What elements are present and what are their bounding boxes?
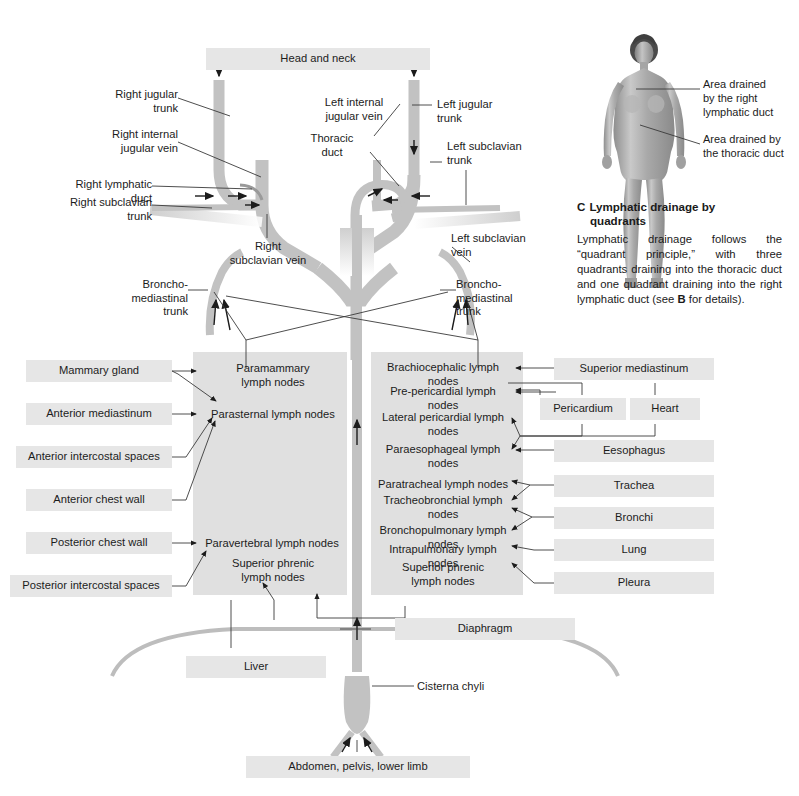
node-label-paratracheal: Paratracheal lymph nodes (375, 478, 511, 492)
label-left-subclavian-trunk: Left subclavian trunk (447, 140, 551, 167)
organ-box-liver[interactable]: Liver (186, 656, 326, 678)
source-box-bronchi[interactable]: Bronchi (554, 507, 714, 529)
node-label-parasternal: Parasternal lymph nodes (201, 408, 345, 422)
section-c-letter: C (577, 200, 585, 213)
label-left-internal-jugular-vein: Left internal jugular vein (306, 96, 402, 123)
source-box-posterior-chest-wall[interactable]: Posterior chest wall (26, 532, 172, 554)
source-box-abdomen-pelvis-lower-limb[interactable]: Abdomen, pelvis, lower limb (246, 756, 470, 778)
label-cisterna-chyli: Cisterna chyli (417, 680, 527, 694)
node-label-tracheobronchial: Tracheobronchial lymph nodes (375, 494, 511, 521)
source-box-posterior-intercostal-spaces[interactable]: Posterior intercostal spaces (10, 575, 172, 597)
source-box-trachea[interactable]: Trachea (554, 475, 714, 497)
label-right-jugular-trunk: Right jugular trunk (60, 88, 178, 115)
node-label-paraesophageal: Paraesophageal lymph nodes (375, 443, 511, 470)
label-right-subclavian-trunk: Right subclavian trunk (34, 196, 152, 223)
node-label-paramammary: Paramammary lymph nodes (205, 362, 341, 389)
node-label-superior-phrenic-right: Superior phrenic lymph nodes (379, 561, 507, 588)
section-c-title: CLymphatic drainage by quadrants (577, 200, 782, 229)
callout-area-thoracic-duct: Area drained by the thoracic duct (703, 133, 799, 161)
label-broncho-mediastinal-trunk-left: Broncho- mediastinal trunk (456, 278, 542, 319)
source-box-heart[interactable]: Heart (630, 398, 700, 420)
label-right-internal-jugular-vein: Right internal jugular vein (50, 128, 178, 155)
section-c-body-part2: for details). (686, 293, 745, 305)
node-label-paravertebral: Paravertebral lymph nodes (199, 537, 345, 551)
section-c-body: Lymphatic drainage follows the “quadrant… (577, 232, 782, 307)
source-box-pleura[interactable]: Pleura (554, 572, 714, 594)
source-box-eesophagus[interactable]: Eesophagus (554, 440, 714, 462)
label-broncho-mediastinal-trunk-right: Broncho- mediastinal trunk (108, 278, 188, 319)
label-thoracic-duct: Thoracic duct (292, 132, 372, 159)
label-left-jugular-trunk: Left jugular trunk (437, 98, 541, 125)
label-left-subclavian-vein: Left subclavian vein (451, 232, 555, 259)
callout-area-right-lymphatic-duct: Area drained by the right lymphatic duct (703, 78, 799, 119)
source-box-head-and-neck[interactable]: Head and neck (206, 48, 430, 70)
section-c-block: CLymphatic drainage by quadrants Lymphat… (577, 200, 782, 307)
source-box-superior-mediastinum[interactable]: Superior mediastinum (554, 358, 714, 380)
node-label-superior-phrenic-left: Superior phrenic lymph nodes (209, 557, 337, 584)
section-c-title-line2: quadrants (577, 214, 782, 228)
section-c-title-line1: Lymphatic drainage by (589, 200, 715, 213)
source-box-anterior-mediastinum[interactable]: Anterior mediastinum (26, 403, 172, 425)
organ-box-diaphragm[interactable]: Diaphragm (395, 618, 575, 640)
source-box-lung[interactable]: Lung (554, 539, 714, 561)
source-box-pericardium[interactable]: Pericardium (540, 398, 626, 420)
source-box-anterior-intercostal-spaces[interactable]: Anterior intercostal spaces (16, 446, 172, 468)
source-box-mammary-gland[interactable]: Mammary gland (26, 360, 172, 382)
node-label-pre-pericardial: Pre-pericardial lymph nodes (375, 385, 511, 412)
label-right-subclavian-vein: Right subclavian vein (212, 240, 324, 267)
node-label-lateral-pericardial: Lateral pericardial lymph nodes (375, 411, 511, 438)
section-c-body-ref: B (677, 293, 685, 305)
source-box-anterior-chest-wall[interactable]: Anterior chest wall (26, 489, 172, 511)
